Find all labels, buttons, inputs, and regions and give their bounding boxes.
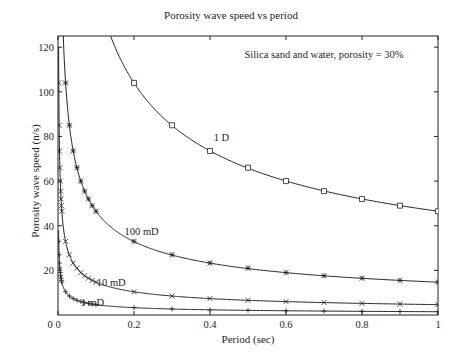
data-marker [170,252,175,257]
data-marker [246,308,251,313]
data-marker [360,309,365,314]
y-tick-label-zero: 0 [47,319,52,330]
data-marker [67,123,72,128]
annotation-note: Silica sand and water, porosity = 30% [244,49,403,60]
y-tick-label: 80 [44,131,55,142]
data-marker [90,203,95,208]
data-marker [322,273,327,278]
data-marker [398,309,403,314]
curve-label: 10 mD [97,277,126,288]
data-marker [322,189,327,194]
data-marker [67,252,72,257]
data-marker [86,196,91,201]
data-marker [78,270,83,275]
data-marker [94,209,99,214]
data-marker [436,280,441,285]
data-marker [208,260,213,265]
data-marker [284,270,289,275]
x-tick-label: 0.6 [279,319,292,330]
x-tick-label: 1 [435,319,440,330]
plot-frame [58,36,438,315]
data-marker [398,203,403,208]
x-tick-label: 0 [55,319,60,330]
series-group [56,0,440,314]
data-marker [208,148,213,153]
data-marker [436,309,441,314]
x-tick-label: 0.4 [203,319,217,330]
data-marker [360,196,365,201]
series-line-1-d [59,0,438,211]
y-tick-label: 100 [38,87,54,98]
data-marker [75,266,80,271]
data-marker [71,260,76,265]
y-tick-label: 60 [44,176,55,187]
data-marker [75,165,80,170]
data-marker [132,80,137,85]
data-marker [284,308,289,313]
data-marker [170,306,175,311]
data-marker [208,307,213,312]
plot-area: 00.20.40.60.81020406080100120Silica sand… [0,0,462,354]
data-marker [246,165,251,170]
y-tick-label: 20 [44,265,55,276]
data-marker [132,305,137,310]
x-tick-label: 0.8 [355,319,368,330]
curve-label: 1 D [214,132,230,143]
y-tick-label: 40 [44,221,55,232]
data-marker [78,179,83,184]
data-marker [57,252,62,257]
data-marker [246,266,251,271]
data-marker [63,80,68,85]
data-marker [398,278,403,283]
y-tick-label: 120 [38,42,54,53]
data-marker [82,189,87,194]
curve-label: 1 mD [80,297,104,308]
data-marker [436,209,441,214]
data-marker [284,179,289,184]
x-tick-label: 0.2 [127,319,140,330]
curve-label: 100 mD [125,226,160,237]
data-marker [56,239,61,244]
data-marker [71,148,76,153]
data-marker [360,276,365,281]
data-marker [170,123,175,128]
series-line-100-md [59,0,438,282]
data-marker [322,309,327,314]
data-marker [132,239,137,244]
